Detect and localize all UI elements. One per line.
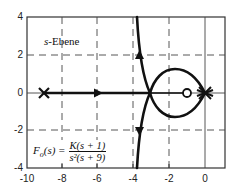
numerator: K(s + 1) <box>69 140 107 152</box>
plane-label: s-Ebene <box>44 35 79 47</box>
x-tick-label: 0 <box>202 174 208 184</box>
arrow-up-icon <box>135 50 144 59</box>
x-tick-label: -8 <box>58 174 67 184</box>
root-locus-plot <box>0 0 237 192</box>
transfer-function: Fo(s) = K(s + 1) s²(s + 9) <box>33 140 106 163</box>
y-tick-label: -2 <box>14 125 23 135</box>
x-tick-label: -2 <box>165 174 174 184</box>
plane-label-suffix: -Ebene <box>48 35 79 47</box>
y-tick-label: 2 <box>17 50 23 60</box>
lhs-argument: (s) = <box>44 144 66 156</box>
x-tick-label: -4 <box>129 174 138 184</box>
transfer-function-lhs: Fo(s) = <box>33 144 66 159</box>
lhs-symbol: F <box>33 144 40 156</box>
arrow-down-icon <box>135 127 144 136</box>
branch-upper-loop <box>150 69 205 93</box>
x-tick-label: -10 <box>20 174 34 184</box>
y-tick-label: -4 <box>14 163 23 173</box>
zero-marker-icon <box>183 89 191 97</box>
denominator: s²(s + 9) <box>69 152 105 163</box>
fraction: K(s + 1) s²(s + 9) <box>69 140 107 163</box>
branch-lower-loop <box>150 93 205 117</box>
tick-marks <box>62 164 169 168</box>
y-tick-label: 4 <box>17 12 23 22</box>
arrow-right-icon <box>94 89 103 98</box>
x-tick-label: -6 <box>93 174 102 184</box>
y-tick-label: 0 <box>17 88 23 98</box>
